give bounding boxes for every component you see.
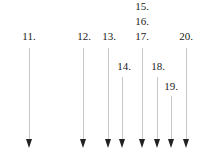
arrow-head <box>26 139 32 148</box>
arrow-head <box>80 139 86 148</box>
arrow-shaft <box>157 77 158 140</box>
label: 15. <box>135 0 149 12</box>
arrow-shaft <box>29 48 30 140</box>
arrow-head <box>105 139 111 148</box>
arrow-head <box>183 139 189 148</box>
label: 18. <box>151 60 165 72</box>
label: 19. <box>164 80 178 92</box>
label: 17. <box>135 30 149 42</box>
arrow-head <box>139 139 145 148</box>
arrow-shaft <box>108 48 109 140</box>
label: 11. <box>22 30 35 42</box>
arrow-shaft <box>83 48 84 140</box>
label: 12. <box>77 30 91 42</box>
arrow-shaft <box>142 48 143 140</box>
label: 14. <box>117 60 131 72</box>
arrow-head <box>119 139 125 148</box>
arrow-shaft <box>171 96 172 140</box>
label: 13. <box>102 30 116 42</box>
arrow-shaft <box>122 77 123 140</box>
arrow-head <box>168 139 174 148</box>
arrow-head <box>154 139 160 148</box>
label: 20. <box>179 30 193 42</box>
arrow-shaft <box>186 48 187 140</box>
label: 16. <box>135 15 149 27</box>
